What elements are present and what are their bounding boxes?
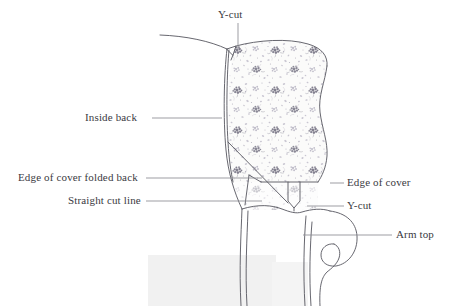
- fabric-cover-panel: [220, 35, 340, 218]
- label-inside-back: Inside back: [85, 112, 137, 123]
- wing-top-curve: [160, 35, 227, 49]
- label-y-cut-right: Y-cut: [347, 200, 372, 211]
- label-edge-of-cover-folded-back: Edge of cover folded back: [18, 172, 138, 183]
- upholstery-diagram: Y-cut Inside back Edge of cover folded b…: [0, 0, 461, 306]
- label-y-cut-top: Y-cut: [218, 9, 243, 20]
- diagram-canvas: [0, 0, 461, 306]
- background-shading: [148, 255, 308, 306]
- label-arm-top: Arm top: [396, 229, 434, 240]
- label-straight-cut-line: Straight cut line: [68, 195, 141, 206]
- arm-scroll-curl: [320, 244, 340, 306]
- label-edge-of-cover: Edge of cover: [347, 177, 411, 188]
